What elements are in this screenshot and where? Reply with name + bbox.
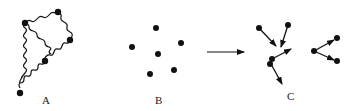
particle	[171, 67, 177, 73]
particle	[285, 22, 291, 28]
vector-arrow-icon	[259, 28, 276, 46]
vector-arrow-icon	[314, 51, 334, 60]
particle	[22, 20, 28, 26]
panel-c-vectors	[259, 25, 334, 84]
particle	[153, 25, 159, 31]
panel-b-label: B	[155, 94, 162, 106]
chain-a-4	[25, 23, 51, 54]
particle	[334, 58, 340, 64]
chain-a-5	[20, 23, 27, 83]
particle	[42, 58, 48, 64]
particle	[267, 61, 273, 67]
particle	[17, 90, 23, 96]
particle	[155, 51, 161, 57]
panel-b-particles	[129, 25, 184, 77]
particle	[178, 40, 184, 46]
particle	[55, 9, 61, 15]
chain-a-2	[58, 12, 72, 38]
particle	[129, 44, 135, 50]
panel-a-label: A	[42, 94, 50, 106]
vector-arrow-icon	[314, 40, 334, 51]
vector-arrow-icon	[271, 64, 282, 84]
diagram-canvas: A B C	[0, 0, 355, 111]
particle	[147, 71, 153, 77]
particle	[311, 48, 317, 54]
panel-c-particles	[256, 22, 340, 67]
panel-c-label: C	[287, 90, 294, 102]
vector-arrow-icon	[281, 25, 288, 47]
chain-a-1	[25, 12, 58, 23]
particle	[67, 37, 73, 43]
particle	[256, 25, 262, 31]
chain-a-3	[45, 40, 70, 58]
vector-arrow-icon	[272, 49, 291, 59]
particle	[334, 35, 340, 41]
